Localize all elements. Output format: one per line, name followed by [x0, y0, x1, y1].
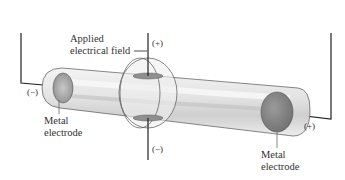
- top-plate-polarity: (+): [152, 38, 163, 48]
- left-electrode-polarity: (−): [27, 87, 38, 97]
- applied-field-label-1: Applied: [70, 33, 104, 45]
- right-electrode: [261, 92, 293, 132]
- left-electrode-label-1: Metal: [44, 115, 69, 127]
- bottom-plate-polarity: (−): [152, 144, 163, 154]
- right-electrode-label-2: electrode: [261, 161, 299, 173]
- right-electrode-label-1: Metal: [261, 149, 286, 161]
- left-electrode-label-2: electrode: [44, 127, 82, 139]
- applied-field-label-2: electrical field: [70, 45, 130, 57]
- tube-diagram: [0, 0, 345, 180]
- right-electrode-polarity: (+): [304, 121, 315, 131]
- left-electrode: [53, 73, 73, 103]
